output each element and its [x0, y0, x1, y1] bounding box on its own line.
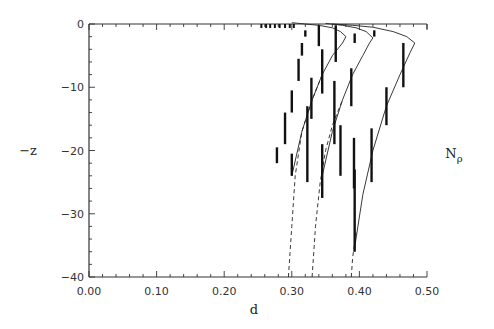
- chart: 0.000.100.200.300.400.500−10−20−30−40 d …: [0, 0, 494, 329]
- x-tick-label: 0.20: [212, 285, 237, 298]
- n-rho-base: N: [445, 146, 456, 161]
- y-axis-title: −z: [19, 143, 37, 158]
- y-tick-label: −20: [61, 145, 84, 158]
- dashed-model-curve: [312, 100, 342, 277]
- x-axis-title: d: [250, 302, 258, 317]
- x-tick-label: 0.30: [280, 285, 305, 298]
- solid-model-curve: [322, 23, 373, 175]
- plot-area: [261, 23, 414, 277]
- dashed-model-curve: [288, 75, 322, 277]
- x-tick-label: 0.50: [415, 285, 440, 298]
- plot-axes: [89, 24, 427, 277]
- n-rho-subscript: ρ: [457, 153, 463, 164]
- tick-labels: 0.000.100.200.300.400.500−10−20−30−40: [61, 18, 439, 298]
- y-tick-label: −40: [61, 271, 84, 284]
- n-rho-annotation: Nρ: [445, 146, 462, 164]
- y-tick-label: −10: [61, 81, 84, 94]
- x-tick-label: 0.10: [144, 285, 169, 298]
- y-tick-label: 0: [77, 18, 84, 31]
- y-tick-label: −30: [61, 208, 84, 221]
- x-tick-label: 0.40: [347, 285, 372, 298]
- x-tick-label: 0.00: [77, 285, 102, 298]
